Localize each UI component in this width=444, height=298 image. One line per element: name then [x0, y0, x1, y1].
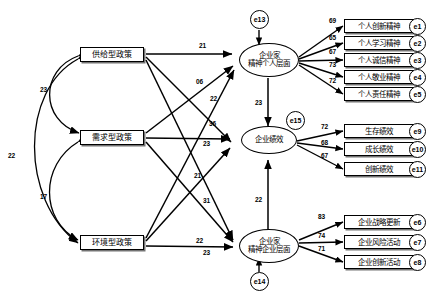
loading-performance-1: 72 — [321, 123, 328, 130]
latent-label-firm-performance: 企业绩效 — [255, 136, 283, 145]
disturbance-label-e14: e14 — [254, 278, 266, 285]
latent-node-firm-performance[interactable]: 企业绩效 — [241, 126, 297, 154]
indicator-label-performance-2: 成长绩效 — [365, 145, 393, 154]
indicator-box-firm-1[interactable]: 企业战略更新 — [344, 215, 414, 229]
error-e8[interactable]: e8 — [409, 254, 426, 271]
error-e11[interactable]: e11 — [409, 161, 426, 178]
error-e4[interactable]: e4 — [409, 69, 426, 86]
loading-individual-4: 73 — [329, 61, 336, 68]
indicator-label-firm-2: 企业风险活动 — [358, 238, 400, 247]
exogenous-label-supply: 供给型政策 — [92, 50, 132, 59]
error-label-e2: e2 — [414, 40, 422, 47]
coefficient-correlation-supply-demand: 23 — [40, 86, 47, 93]
coefficient-demand-to-individual: 22 — [210, 95, 217, 102]
disturbance-label-e13: e13 — [254, 16, 266, 23]
indicator-box-individual-5[interactable]: 个人责任精神 — [344, 87, 414, 101]
indicator-box-performance-3[interactable]: 创新绩效 — [344, 162, 414, 176]
disturbance-e13[interactable]: e13 — [250, 10, 269, 29]
error-e9[interactable]: e9 — [409, 123, 426, 140]
disturbance-label-e15: e15 — [290, 117, 302, 124]
error-e3[interactable]: e3 — [409, 52, 426, 69]
coefficient-individual-to-performance: 23 — [255, 99, 262, 106]
indicator-box-performance-2[interactable]: 成长绩效 — [344, 142, 414, 156]
error-label-e5: e5 — [414, 91, 422, 98]
indicator-label-firm-1: 企业战略更新 — [358, 218, 400, 227]
coefficient-environment-to-performance: 21 — [194, 172, 201, 179]
sem-diagram-canvas: 供给型政策 需求型政策 环境型政策 企业家 精神个人层面 企业绩效 企业家 精神… — [0, 0, 444, 298]
loading-performance-2: 68 — [321, 139, 328, 146]
coefficient-demand-to-performance: 23 — [203, 140, 210, 147]
exogenous-node-supply[interactable]: 供给型政策 — [80, 47, 144, 62]
error-label-e4: e4 — [414, 74, 422, 81]
coefficient-firm-to-performance: 22 — [255, 196, 262, 203]
indicator-label-performance-3: 创新绩效 — [365, 165, 393, 174]
coefficient-correlation-demand-environment: 17 — [40, 193, 47, 200]
error-label-e10: e10 — [412, 146, 424, 153]
indicator-box-individual-3[interactable]: 个人诚信精神 — [344, 53, 414, 67]
error-e10[interactable]: e10 — [409, 141, 426, 158]
indicator-box-individual-2[interactable]: 个人学习精神 — [344, 36, 414, 50]
error-label-e11: e11 — [412, 166, 423, 173]
latent-node-entrepreneurship-firm[interactable]: 企业家 精神企业层面 — [239, 229, 299, 263]
disturbance-e15[interactable]: e15 — [286, 111, 305, 130]
coefficient-demand-to-firm: 22 — [196, 237, 203, 244]
error-e7[interactable]: e7 — [409, 234, 426, 251]
indicator-label-firm-3: 企业创新活动 — [358, 258, 400, 267]
error-label-e1: e1 — [414, 23, 422, 30]
indicator-box-performance-1[interactable]: 生存绩效 — [344, 124, 414, 138]
error-label-e3: e3 — [414, 57, 422, 64]
loading-performance-3: 67 — [321, 152, 328, 159]
error-label-e9: e9 — [414, 128, 422, 135]
latent-node-entrepreneurship-individual[interactable]: 企业家 精神个人层面 — [239, 43, 299, 77]
loading-firm-3: 71 — [318, 245, 325, 252]
indicator-box-firm-3[interactable]: 企业创新活动 — [344, 255, 414, 269]
error-label-e6: e6 — [414, 219, 422, 226]
coefficient-supply-to-performance: 06 — [196, 78, 203, 85]
exogenous-label-environment: 环境型政策 — [92, 238, 132, 247]
error-e2[interactable]: e2 — [409, 35, 426, 52]
loading-individual-5: 72 — [329, 77, 336, 84]
error-e5[interactable]: e5 — [409, 86, 426, 103]
loading-firm-1: 83 — [318, 213, 325, 220]
exogenous-node-demand[interactable]: 需求型政策 — [80, 130, 144, 145]
error-e6[interactable]: e6 — [409, 214, 426, 231]
indicator-box-individual-4[interactable]: 个人敬业精神 — [344, 70, 414, 84]
exogenous-label-demand: 需求型政策 — [92, 133, 132, 142]
loading-individual-2: 65 — [329, 34, 336, 41]
indicator-box-firm-2[interactable]: 企业风险活动 — [344, 235, 414, 249]
indicator-label-individual-5: 个人责任精神 — [358, 90, 400, 99]
error-label-e7: e7 — [414, 239, 422, 246]
disturbance-e14[interactable]: e14 — [250, 272, 269, 291]
indicator-label-performance-1: 生存绩效 — [365, 127, 393, 136]
exogenous-node-environment[interactable]: 环境型政策 — [80, 235, 144, 250]
latent-label-individual-line2: 精神个人层面 — [248, 60, 290, 69]
coefficient-environment-to-firm: 23 — [203, 249, 210, 256]
error-label-e8: e8 — [414, 259, 422, 266]
coefficient-environment-to-individual: 36 — [209, 120, 216, 127]
loading-individual-3: 67 — [329, 48, 336, 55]
loading-firm-2: 74 — [318, 232, 325, 239]
coefficient-supply-to-firm: 31 — [203, 197, 210, 204]
indicator-label-individual-2: 个人学习精神 — [358, 39, 400, 48]
coefficient-correlation-supply-environment: 22 — [8, 152, 15, 159]
indicator-label-individual-4: 个人敬业精神 — [358, 73, 400, 82]
indicator-box-individual-1[interactable]: 个人创新精神 — [344, 19, 414, 33]
loading-individual-1: 69 — [329, 17, 336, 24]
indicator-label-individual-3: 个人诚信精神 — [358, 56, 400, 65]
coefficient-supply-to-individual: 21 — [199, 42, 206, 49]
indicator-label-individual-1: 个人创新精神 — [358, 22, 400, 31]
error-e1[interactable]: e1 — [409, 18, 426, 35]
latent-label-firm-line2: 精神企业层面 — [248, 246, 290, 255]
